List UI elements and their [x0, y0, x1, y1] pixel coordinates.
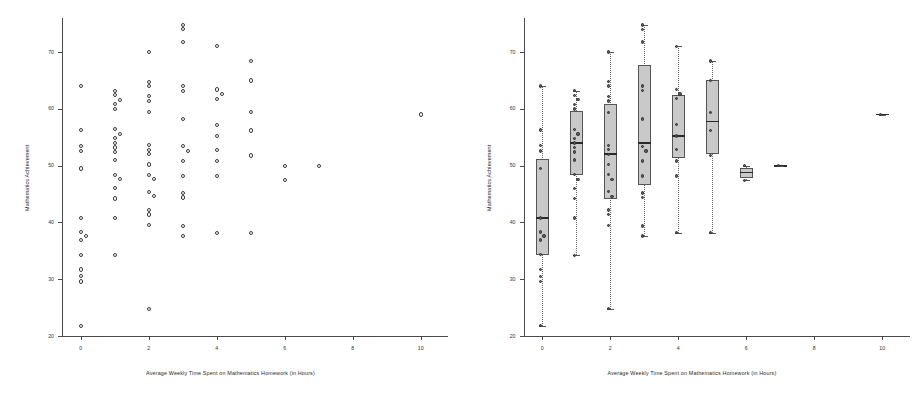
y-axis-line	[524, 18, 525, 336]
data-point	[79, 84, 83, 88]
data-point	[147, 84, 151, 88]
data-point	[573, 141, 576, 144]
median-line	[638, 142, 651, 144]
box	[672, 95, 685, 157]
data-point	[215, 123, 219, 127]
data-point	[539, 324, 542, 327]
data-point	[147, 152, 151, 156]
median-line	[570, 142, 583, 144]
data-point	[79, 267, 83, 271]
y-axis-title: Mathematics Achievement	[486, 145, 492, 211]
x-tick	[746, 336, 747, 340]
data-point	[879, 113, 882, 116]
data-point	[539, 84, 542, 87]
data-point	[576, 178, 579, 181]
data-point	[113, 136, 117, 140]
data-point	[709, 231, 712, 234]
data-point	[147, 99, 151, 103]
data-point	[539, 230, 542, 233]
x-tick	[610, 336, 611, 340]
data-point	[79, 279, 83, 283]
two-panel-figure: 2030405060700246810Average Weekly Time S…	[0, 0, 923, 402]
x-axis-line	[524, 336, 910, 337]
data-point	[675, 174, 678, 177]
data-point	[610, 195, 613, 198]
data-point	[181, 174, 185, 178]
data-point	[777, 164, 780, 167]
data-point	[79, 230, 83, 234]
y-tick	[520, 109, 524, 110]
x-tick	[217, 336, 218, 340]
data-point	[79, 128, 83, 132]
y-tick-label: 30	[490, 276, 516, 282]
data-point	[610, 178, 613, 181]
data-point	[641, 40, 644, 43]
data-point	[607, 307, 610, 310]
data-point	[220, 92, 224, 96]
box	[604, 104, 617, 198]
median-line	[672, 135, 685, 137]
data-point	[607, 84, 610, 87]
left-panel-scatter: 2030405060700246810Average Weekly Time S…	[0, 0, 462, 402]
median-line	[536, 217, 549, 219]
data-point	[576, 132, 579, 135]
y-tick	[520, 166, 524, 167]
data-point	[641, 234, 644, 237]
data-point	[573, 94, 576, 97]
data-point	[147, 110, 151, 114]
data-point	[181, 234, 185, 238]
y-tick-label: 40	[28, 219, 54, 225]
y-tick	[58, 52, 62, 53]
x-tick	[882, 336, 883, 340]
x-tick-label: 4	[207, 345, 227, 351]
data-point	[215, 148, 219, 152]
data-point	[283, 178, 287, 182]
y-tick-label: 60	[28, 105, 54, 111]
data-point	[113, 145, 117, 149]
data-point	[147, 208, 151, 212]
x-tick-label: 2	[139, 345, 159, 351]
data-point	[539, 216, 542, 219]
x-tick-label: 0	[532, 345, 552, 351]
data-point	[607, 99, 610, 102]
data-point	[607, 50, 610, 53]
y-tick	[58, 222, 62, 223]
data-point	[84, 234, 88, 238]
y-tick-label: 30	[28, 276, 54, 282]
data-point	[118, 177, 122, 181]
box	[638, 65, 651, 185]
x-axis-line	[62, 336, 448, 337]
data-point	[215, 87, 219, 91]
y-tick	[520, 336, 524, 337]
data-point	[743, 179, 746, 182]
data-point	[249, 231, 253, 235]
data-point	[181, 23, 185, 27]
data-point	[113, 186, 117, 190]
y-tick	[520, 222, 524, 223]
box	[536, 159, 549, 255]
data-point	[215, 231, 219, 235]
data-point	[147, 94, 151, 98]
data-point	[641, 159, 644, 162]
median-line	[706, 121, 719, 123]
data-point	[607, 144, 610, 147]
data-point	[113, 253, 117, 257]
data-point	[215, 44, 219, 48]
y-tick-label: 60	[490, 105, 516, 111]
x-tick	[81, 336, 82, 340]
data-point	[113, 107, 117, 111]
data-point	[118, 132, 122, 136]
data-point	[215, 134, 219, 138]
data-point	[147, 50, 151, 54]
data-point	[79, 216, 83, 220]
x-tick-label: 2	[600, 345, 620, 351]
x-tick	[149, 336, 150, 340]
data-point	[539, 128, 542, 131]
y-tick	[58, 109, 62, 110]
data-point	[641, 117, 644, 120]
data-point	[152, 177, 156, 181]
data-point	[79, 253, 83, 257]
data-point	[249, 110, 253, 114]
data-point	[79, 144, 83, 148]
data-point	[539, 238, 542, 241]
